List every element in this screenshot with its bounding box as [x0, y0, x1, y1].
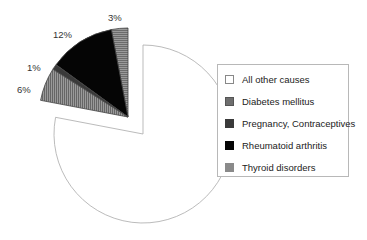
- legend-label: All other causes: [242, 74, 310, 85]
- legend-item-ra: Rheumatoid arthritis: [225, 139, 327, 151]
- legend-item-pregnancy: Pregnancy, Contraceptives: [225, 117, 355, 129]
- legend-item-diabetes: Diabetes mellitus: [225, 95, 314, 107]
- legend-label: Diabetes mellitus: [242, 96, 314, 107]
- legend-label: Pregnancy, Contraceptives: [242, 118, 355, 129]
- legend-swatch-white: [225, 75, 234, 84]
- legend-label: Rheumatoid arthritis: [242, 140, 327, 151]
- label-diabetes-pct: 6%: [17, 84, 31, 95]
- chart-legend: All other causes Diabetes mellitus Pregn…: [217, 64, 349, 177]
- legend-swatch-ra: [225, 141, 234, 150]
- legend-swatch-pregnancy: [225, 119, 234, 128]
- legend-item-all-other-causes: All other causes: [225, 73, 310, 85]
- exploded-slices: [41, 28, 128, 117]
- legend-label: Thyroid disorders: [242, 162, 315, 173]
- label-pregnancy-pct: 1%: [27, 62, 41, 73]
- legend-item-thyroid: Thyroid disorders: [225, 161, 315, 173]
- label-ra-pct: 12%: [53, 29, 72, 40]
- label-thyroid-pct: 3%: [108, 12, 122, 23]
- legend-swatch-thyroid: [225, 163, 234, 172]
- legend-swatch-diabetes: [225, 97, 234, 106]
